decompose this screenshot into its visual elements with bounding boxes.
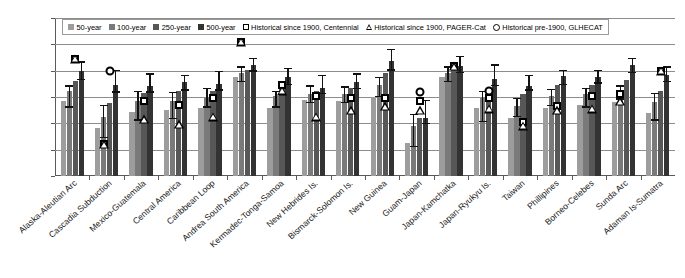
legend-swatch-swatch-icon (153, 24, 159, 30)
bar-group (468, 18, 502, 176)
bar (543, 108, 548, 176)
error-bar (103, 105, 104, 138)
bar (336, 101, 341, 176)
bar (141, 93, 146, 176)
bar (555, 85, 560, 176)
x-axis-tick-label: Adaman Is-Sumatra (601, 178, 664, 237)
bar (646, 113, 651, 176)
error-bar (597, 70, 598, 84)
bar-group (89, 18, 123, 176)
marker-square-centennial (140, 97, 148, 105)
error-bar (413, 114, 414, 147)
legend-label: 250-year (162, 23, 191, 32)
legend-swatch-swatch-icon (198, 24, 204, 30)
bar (474, 108, 479, 176)
bar (354, 82, 359, 176)
marker-triangle-pagercat (518, 121, 528, 130)
bar-group (434, 18, 468, 176)
error-bar (654, 93, 655, 121)
bar (624, 80, 629, 176)
bar (577, 105, 582, 176)
bar-group (262, 18, 296, 176)
bar (308, 94, 313, 176)
marker-square-centennial (312, 92, 320, 100)
error-bar (494, 64, 495, 86)
bar (273, 96, 278, 176)
marker-triangle-pagercat (311, 113, 321, 122)
bar (439, 77, 444, 176)
bar (164, 110, 169, 176)
bar-group (55, 18, 89, 176)
marker-triangle-pagercat (449, 62, 459, 71)
marker-triangle-pagercat (208, 113, 218, 122)
bar (371, 97, 376, 176)
error-bar (563, 70, 564, 86)
x-axis-tick-label: Taiwan (500, 178, 527, 203)
error-bar (206, 88, 207, 108)
legend-label: 50-year (77, 23, 102, 32)
error-bar (322, 75, 323, 94)
bar (612, 102, 617, 176)
marker-square-centennial (209, 94, 217, 102)
bar-group (606, 18, 640, 176)
error-bar (528, 75, 529, 91)
bar (267, 108, 272, 176)
x-axis-labels: Alaska-Aleutian ArcCascadia SubductionMe… (0, 176, 685, 278)
bar (508, 118, 513, 176)
bar-group (331, 18, 365, 176)
error-bar (310, 85, 311, 103)
bar (561, 76, 566, 176)
error-bar (551, 89, 552, 106)
marker-triangle-pagercat (346, 106, 356, 115)
marker-triangle-pagercat (615, 97, 625, 106)
marker-circle-glhecat (105, 66, 114, 75)
error-bar (356, 73, 357, 89)
bar (595, 77, 600, 176)
legend-item: Historical since 1900, Centennial (243, 23, 359, 32)
bar (630, 65, 635, 176)
bar-group (124, 18, 158, 176)
bar (405, 143, 410, 176)
error-bar (391, 49, 392, 71)
marker-square-centennial (175, 101, 183, 109)
bar-group (503, 18, 537, 176)
error-bar (115, 70, 116, 93)
legend-label: Historical since 1900, Centennial (251, 23, 359, 32)
bar (457, 66, 462, 176)
marker-circle-glhecat (415, 87, 424, 96)
bar (204, 98, 209, 176)
marker-square-centennial (416, 97, 424, 105)
x-axis-tick-label: Bismarck-Solomon Is. (286, 178, 355, 241)
bar (520, 94, 525, 176)
legend-item: 500-year (198, 23, 236, 32)
bar (95, 128, 100, 176)
marker-triangle-pagercat (277, 86, 287, 95)
bar-group (399, 18, 433, 176)
error-bar (81, 61, 82, 80)
bar (445, 73, 450, 176)
legend-swatch-triangle-icon (366, 24, 372, 30)
marker-triangle-pagercat (236, 37, 246, 46)
legend-item: 50-year (68, 23, 102, 32)
bar (61, 101, 66, 176)
legend-label: Historical since 1900, PAGER-Cat (374, 23, 486, 32)
marker-triangle-pagercat (380, 102, 390, 111)
legend-item: 250-year (153, 23, 191, 32)
marker-triangle-pagercat (587, 104, 597, 113)
legend-swatch-square-icon (243, 24, 249, 30)
error-bar (459, 56, 460, 73)
marker-triangle-pagercat (552, 106, 562, 115)
marker-square-centennial (588, 92, 596, 100)
marker-triangle-pagercat (656, 66, 666, 75)
bar-group (572, 18, 606, 176)
bar (245, 70, 250, 176)
error-bar (666, 66, 667, 82)
legend-item: Historical since 1900, PAGER-Cat (366, 23, 486, 32)
bar (198, 108, 203, 176)
bar-group (193, 18, 227, 176)
bar (320, 88, 325, 176)
bar (423, 118, 428, 176)
bar (182, 82, 187, 176)
error-bar (149, 73, 150, 92)
error-bar (379, 77, 380, 97)
